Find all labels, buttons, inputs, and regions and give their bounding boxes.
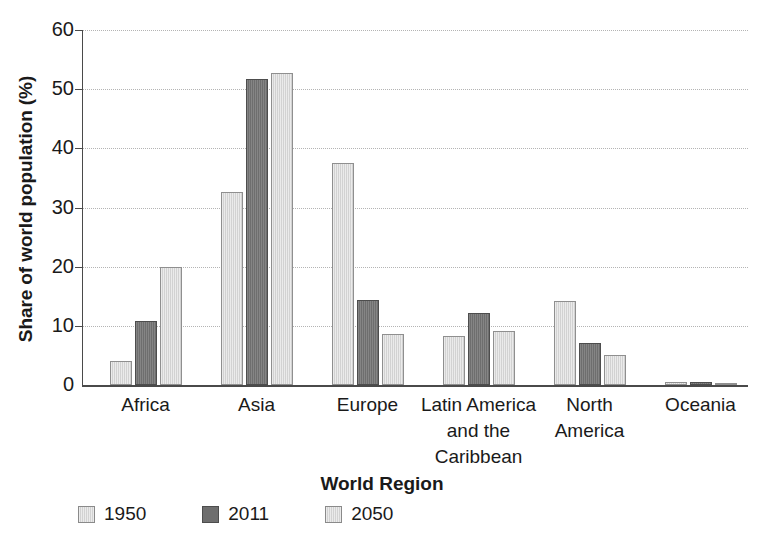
y-axis-tick-label: 30 <box>34 196 74 219</box>
gridline <box>82 30 748 31</box>
bar-2050-north-america <box>604 355 626 385</box>
gridline <box>82 267 748 268</box>
bar-1950-europe <box>332 163 354 385</box>
y-axis-tick-mark <box>75 326 82 327</box>
legend-swatch-icon <box>325 506 342 523</box>
legend-label: 2011 <box>228 503 269 525</box>
legend-item-2050[interactable]: 2050 <box>325 503 393 525</box>
gridline <box>82 89 748 90</box>
y-axis-tick-label: 20 <box>34 255 74 278</box>
x-axis-title: World Region <box>0 473 764 495</box>
bar-2011-oceania <box>690 382 712 385</box>
bar-2011-africa <box>135 321 157 385</box>
chart-legend: 195020112050 <box>78 503 449 525</box>
bar-2050-asia <box>271 73 293 385</box>
bar-1950-oceania <box>665 382 687 385</box>
y-axis-tick-mark <box>75 208 82 209</box>
y-axis-line <box>82 30 83 385</box>
legend-item-2011[interactable]: 2011 <box>202 503 269 525</box>
y-axis-tick-mark <box>75 89 82 90</box>
bar-1950-latin-america-and-the-caribbean <box>443 336 465 385</box>
x-axis-label: Oceania <box>626 392 764 418</box>
gridline <box>82 326 748 327</box>
bar-1950-asia <box>221 192 243 385</box>
bar-2011-latin-america-and-the-caribbean <box>468 313 490 385</box>
x-axis-line <box>82 385 748 387</box>
gridline <box>82 208 748 209</box>
gridline <box>82 148 748 149</box>
bar-1950-north-america <box>554 301 576 385</box>
legend-label: 1950 <box>104 503 146 525</box>
legend-item-1950[interactable]: 1950 <box>78 503 146 525</box>
legend-swatch-icon <box>78 506 95 523</box>
bar-2011-asia <box>246 79 268 385</box>
bar-2050-latin-america-and-the-caribbean <box>493 331 515 385</box>
bar-2050-africa <box>160 267 182 385</box>
plot-area: 0102030405060 <box>82 30 748 385</box>
y-axis-tick-mark <box>75 30 82 31</box>
y-axis-tick-label: 0 <box>34 373 74 396</box>
bar-chart-figure: Share of world population (%) 0102030405… <box>0 0 764 557</box>
y-axis-tick-label: 10 <box>34 314 74 337</box>
y-axis-tick-mark <box>75 267 82 268</box>
y-axis-tick-label: 40 <box>34 136 74 159</box>
y-axis-tick-mark <box>75 148 82 149</box>
y-axis-tick-label: 50 <box>34 77 74 100</box>
bar-2050-europe <box>382 334 404 385</box>
bar-2011-europe <box>357 300 379 385</box>
y-axis-tick-label: 60 <box>34 18 74 41</box>
bar-2050-oceania <box>715 383 737 385</box>
legend-swatch-icon <box>202 506 219 523</box>
bar-1950-africa <box>110 361 132 385</box>
bar-2011-north-america <box>579 343 601 385</box>
legend-label: 2050 <box>351 503 393 525</box>
